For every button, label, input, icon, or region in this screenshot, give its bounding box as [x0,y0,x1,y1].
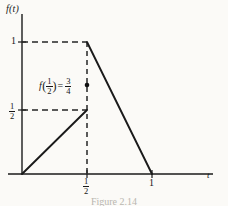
curve-falling-segment [87,42,152,174]
function-value-annotation: f ( 1 2 ) = 3 4 [39,77,71,95]
fraction-numerator: 3 [65,77,71,86]
fraction-denominator: 4 [65,86,71,96]
curve-rising-segment [22,110,87,174]
x-tick-label-1: 1 [149,178,154,188]
plot-canvas [0,0,228,206]
figure-caption: Figure 2.14 [0,196,228,206]
annotation-result-fraction: 3 4 [65,77,71,95]
fraction-numerator: 1 [83,177,89,186]
function-graph-figure: f(t) t 1 1 2 1 2 1 f ( 1 2 ) = 3 4 Figur… [0,0,228,206]
fraction-denominator: 2 [83,186,89,196]
fraction-one-half: 1 2 [83,177,89,195]
y-tick-label-1: 1 [11,36,16,46]
y-tick-label-one-half: 1 2 [9,102,15,120]
fraction-one-half: 1 2 [9,102,15,120]
annotation-equals-sign: = [58,81,64,91]
fraction-numerator: 1 [9,102,15,111]
x-tick-label-one-half: 1 2 [83,177,89,195]
annotation-close-paren: ) [53,80,57,92]
fraction-denominator: 2 [9,111,15,121]
value-dot-marker [85,83,90,88]
x-axis-label: t [207,171,210,180]
y-axis-label: f(t) [6,4,19,14]
